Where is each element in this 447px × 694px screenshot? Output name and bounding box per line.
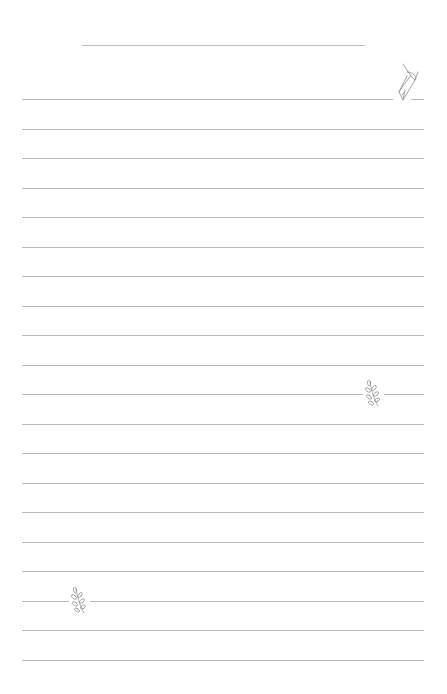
ruled-line	[411, 99, 424, 100]
title-line	[82, 45, 365, 46]
ruled-line	[90, 601, 424, 602]
ruled-line	[22, 335, 424, 336]
ruled-line	[384, 394, 424, 395]
ruled-line	[22, 601, 69, 602]
ruled-line	[22, 542, 424, 543]
ruled-line	[22, 276, 424, 277]
ruled-line	[22, 424, 424, 425]
ruled-line	[22, 158, 424, 159]
ruled-line	[22, 129, 424, 130]
lined-notepaper	[0, 0, 447, 694]
ruled-line	[22, 188, 424, 189]
ruled-line	[22, 660, 424, 661]
leaf-sprig-icon	[70, 586, 88, 616]
ruled-line	[22, 217, 424, 218]
ruled-line	[22, 394, 363, 395]
ruled-line	[22, 306, 424, 307]
fountain-pen-icon	[393, 62, 419, 102]
ruled-line	[22, 512, 424, 513]
ruled-line	[22, 630, 424, 631]
ruled-line	[22, 365, 424, 366]
leaf-sprig-icon	[364, 379, 382, 409]
ruled-line	[22, 571, 424, 572]
ruled-line	[22, 247, 424, 248]
ruled-line	[22, 453, 424, 454]
ruled-line	[22, 99, 393, 100]
ruled-line	[22, 483, 424, 484]
